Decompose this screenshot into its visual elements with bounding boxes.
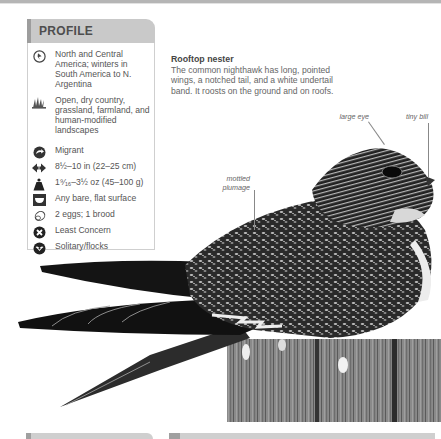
article-block: Rooftop nester The common nighthawk has … [171,54,346,96]
next-profile-header-tab [26,433,153,439]
profile-item-range: North and Central America; winters in So… [32,49,150,89]
callout-tiny-bill: tiny bill [398,113,428,122]
profile-header: PROFILE [27,19,155,43]
callout-large-eye: large eye [329,113,369,122]
globe-range-icon [32,49,46,63]
article-title: Rooftop nester [171,54,346,65]
profile-range-text: North and Central America; winters in So… [55,49,150,89]
nighthawk-photo [0,100,441,422]
article-body: The common nighthawk has long, pointed w… [171,65,346,96]
callout-mottled-plumage: mottled plumage [210,175,250,192]
leader-line-plumage [254,190,255,230]
leader-line-bill [428,123,429,177]
next-section-header-tab [169,433,435,439]
callout-mottled-line2: plumage [222,183,250,192]
profile-title: PROFILE [39,24,93,38]
page-top-rule-shadow [0,3,441,4]
